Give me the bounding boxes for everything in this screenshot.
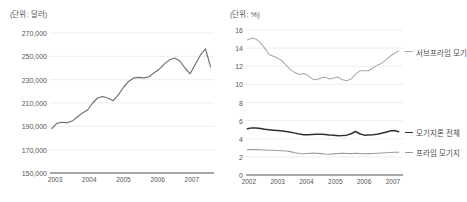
y-axis-tick-label: 14 <box>228 45 243 52</box>
y-axis-tick-label: 150,000 <box>0 170 47 177</box>
y-axis-tick-label: 230,000 <box>0 76 47 83</box>
series-label-3: 프라임 모기지 <box>416 147 460 158</box>
chart-svg <box>228 0 456 202</box>
series-line-1 <box>52 49 211 129</box>
plot-area-right: 0246810121416200220032004200520062007서브프… <box>228 0 456 202</box>
series-line-2 <box>247 128 398 136</box>
series-line-1 <box>247 38 398 81</box>
y-axis-tick-label: 210,000 <box>0 100 47 107</box>
y-axis-tick-label: 16 <box>228 27 243 34</box>
x-axis-tick-label: 2004 <box>299 178 313 185</box>
y-axis-tick-label: 2 <box>228 153 243 160</box>
chart-panel-home-price: (단위: 달러) 150,000170,000190,000210,000230… <box>0 0 228 202</box>
x-axis-tick-label: 2006 <box>357 178 371 185</box>
x-axis-tick-label: 2007 <box>386 178 400 185</box>
chart-panel-delinquency: (단위: %) 02468101214162002200320042005200… <box>228 0 456 202</box>
y-axis-tick-label: 12 <box>228 63 243 70</box>
y-axis-tick-label: 8 <box>228 99 243 106</box>
y-axis-tick-label: 170,000 <box>0 146 47 153</box>
legend-swatch-2 <box>405 132 413 133</box>
x-axis-tick-label: 2007 <box>185 176 199 183</box>
y-axis-tick-label: 10 <box>228 81 243 88</box>
series-line-3 <box>247 149 398 154</box>
x-axis-tick-label: 2003 <box>270 178 284 185</box>
x-axis-tick-label: 2003 <box>48 176 62 183</box>
y-axis-tick-label: 4 <box>228 135 243 142</box>
plot-area-left: 150,000170,000190,000210,000230,000250,0… <box>0 0 228 202</box>
x-axis-tick-label: 2005 <box>328 178 342 185</box>
series-label-2: 모기지론 전체 <box>416 127 460 138</box>
y-axis-tick-label: 6 <box>228 117 243 124</box>
y-axis-tick-label: 270,000 <box>0 30 47 37</box>
legend-swatch-3 <box>405 152 413 153</box>
x-axis-tick-label: 2002 <box>242 178 256 185</box>
series-label-1: 서브프라임 모기 <box>416 47 467 58</box>
y-axis-tick-label: 250,000 <box>0 53 47 60</box>
x-axis-tick-label: 2004 <box>82 176 96 183</box>
y-axis-tick-label: 190,000 <box>0 123 47 130</box>
x-axis-tick-label: 2005 <box>116 176 130 183</box>
x-axis-tick-label: 2006 <box>150 176 164 183</box>
legend-swatch-1 <box>405 51 413 52</box>
